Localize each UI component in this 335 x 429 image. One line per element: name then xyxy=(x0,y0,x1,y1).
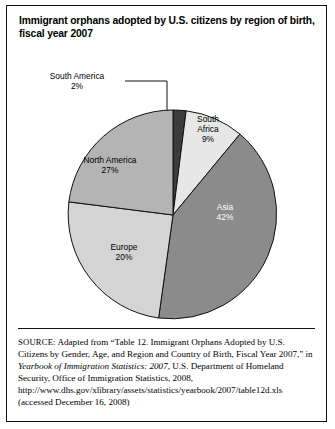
pie-label-europe: Europe 20% xyxy=(95,242,153,262)
pie-chart-graphic xyxy=(7,54,326,320)
source-divider xyxy=(18,328,315,329)
pie-chart: South America 2% South Africa 9% Asia 42… xyxy=(7,54,326,320)
pie-label-north-america-value: 27% xyxy=(67,165,153,175)
page-title: Immigrant orphans adopted by U.S. citize… xyxy=(19,14,315,40)
pie-label-south-america-value: 2% xyxy=(29,81,125,91)
pie-label-asia: Asia 42% xyxy=(203,202,247,222)
pie-label-south-africa: South Africa 9% xyxy=(185,114,231,145)
pie-label-asia-value: 42% xyxy=(203,212,247,222)
pie-label-south-america: South America 2% xyxy=(29,71,125,91)
source-publication-title: Yearbook of Immigration Statistics: 2007 xyxy=(18,361,168,371)
pie-label-south-america-name: South America xyxy=(29,71,125,81)
source-text-before: Adapted from “Table 12. Immigrant Orphan… xyxy=(18,337,313,359)
pie-label-asia-name: Asia xyxy=(203,202,247,212)
source-label: SOURCE: xyxy=(18,337,56,347)
pie-label-north-america: North America 27% xyxy=(67,155,153,175)
source-note: SOURCE: Adapted from “Table 12. Immigran… xyxy=(18,336,316,409)
pie-label-south-africa-name-line2: Africa xyxy=(185,124,231,134)
pie-label-europe-name: Europe xyxy=(95,242,153,252)
pie-label-south-africa-value: 9% xyxy=(185,134,231,144)
pie-label-south-africa-name-line1: South xyxy=(185,114,231,124)
figure-frame: Immigrant orphans adopted by U.S. citize… xyxy=(6,5,327,422)
pie-label-europe-value: 20% xyxy=(95,252,153,262)
pie-label-north-america-name: North America xyxy=(67,155,153,165)
